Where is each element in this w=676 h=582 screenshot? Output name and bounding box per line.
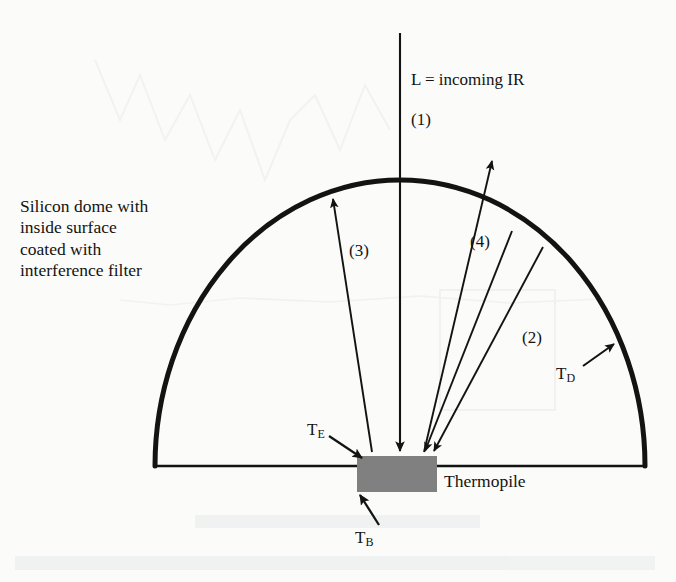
thermopile-label: Thermopile: [444, 471, 526, 492]
element-temperature-label: TE: [307, 420, 325, 441]
ray-1-label: (1): [411, 110, 431, 131]
te-pointer-line: [329, 436, 362, 458]
diagram-drawing: [0, 0, 676, 582]
td-pointer-line: [583, 344, 614, 366]
dome-temperature-label: TD: [556, 364, 575, 385]
ray-2-label: (2): [522, 328, 542, 349]
page-bleed-artifacts: [15, 60, 655, 570]
ray-2-dome-emission: [434, 247, 543, 451]
ray-3-upward-emission: [333, 199, 372, 452]
silicon-dome-caption: Silicon dome withinside surfacecoated wi…: [20, 196, 210, 281]
te-subscript: E: [317, 427, 324, 441]
te-symbol: T: [307, 420, 317, 439]
ray-3-label: (3): [349, 241, 369, 262]
figure-canvas: Silicon dome withinside surfacecoated wi…: [0, 0, 676, 582]
thermopile-block: [357, 456, 437, 492]
body-temperature-label: TB: [355, 528, 373, 549]
ray-4-label: (4): [470, 232, 490, 253]
incoming-ir-label: L = incoming IR: [411, 70, 524, 91]
tb-symbol: T: [355, 528, 365, 547]
tb-subscript: B: [365, 535, 373, 549]
td-subscript: D: [566, 371, 575, 385]
td-symbol: T: [556, 364, 566, 383]
